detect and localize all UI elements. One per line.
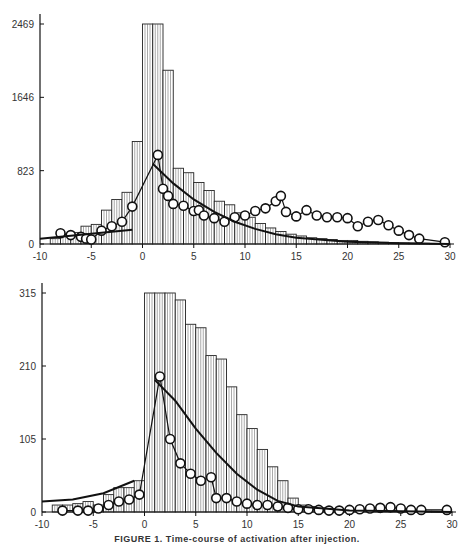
data-point-circle: [125, 495, 134, 504]
y-tick-label: 2469: [12, 19, 35, 30]
data-point-circle: [323, 213, 332, 222]
histogram-bar: [175, 300, 185, 512]
x-tick-label: 0: [142, 519, 148, 530]
data-point-circle: [128, 202, 137, 211]
data-point-circle: [169, 199, 178, 208]
histogram-bar: [153, 24, 163, 244]
data-point-circle: [200, 211, 209, 220]
data-point-circle: [384, 221, 393, 230]
data-point-circle: [374, 215, 383, 224]
x-tick-label: -5: [87, 251, 96, 262]
data-point-circle: [333, 213, 342, 222]
data-point-circle: [232, 497, 241, 506]
histogram-bar: [165, 293, 175, 512]
data-point-circle: [212, 494, 221, 503]
data-point-circle: [394, 226, 403, 235]
x-tick-label: 20: [344, 519, 356, 530]
data-point-circle: [407, 505, 416, 514]
data-point-circle: [261, 204, 270, 213]
histogram-bar: [216, 359, 226, 512]
y-tick-label: 315: [19, 288, 36, 299]
data-point-circle: [263, 501, 272, 510]
data-point-circle: [135, 490, 144, 499]
data-point-circle: [118, 217, 127, 226]
y-tick-label: 0: [28, 239, 34, 250]
data-point-circle: [302, 206, 311, 215]
x-tick-label: 0: [140, 251, 146, 262]
data-point-circle: [155, 372, 164, 381]
data-point-circle: [73, 506, 82, 515]
histogram-bar: [50, 239, 60, 244]
data-point-circle: [292, 212, 301, 221]
histogram-bar: [143, 24, 153, 244]
data-point-circle: [417, 505, 426, 514]
data-point-circle: [415, 234, 424, 243]
data-point-circle: [186, 469, 195, 478]
data-point-circle: [276, 191, 285, 200]
data-point-circle: [243, 499, 252, 508]
data-point-circle: [104, 501, 113, 510]
x-tick-label: 5: [191, 251, 197, 262]
histogram-bar: [163, 70, 173, 244]
data-point-circle: [84, 506, 93, 515]
x-tick-label: -5: [89, 519, 98, 530]
histogram-bar: [276, 232, 286, 244]
histogram-bar: [145, 293, 155, 512]
data-point-circle: [176, 459, 185, 468]
x-tick-label: 20: [342, 251, 354, 262]
data-point-circle: [355, 505, 364, 514]
data-point-circle: [364, 217, 373, 226]
y-tick-label: 105: [19, 434, 36, 445]
data-point-circle: [343, 214, 352, 223]
histogram-bar: [255, 224, 265, 244]
data-point-circle: [210, 214, 219, 223]
data-point-circle: [314, 505, 323, 514]
y-tick-label: 1646: [12, 92, 35, 103]
histogram-bar: [266, 228, 276, 244]
data-point-circle: [179, 201, 188, 210]
y-tick-label: 0: [30, 507, 36, 518]
chart-bottom: -10-50510152025300105210315: [19, 283, 458, 530]
chart-top: -10-5051015202530082316462469: [12, 14, 456, 262]
figure: -10-5051015202530082316462469 -10-505101…: [0, 0, 474, 546]
histogram-bar: [132, 142, 142, 244]
data-point-circle: [325, 506, 334, 515]
x-tick-label: 10: [239, 251, 251, 262]
data-point-circle: [253, 501, 262, 510]
data-point-circle: [273, 502, 282, 511]
data-point-circle: [58, 506, 67, 515]
x-tick-label: -10: [35, 519, 50, 530]
x-tick-label: -10: [33, 251, 48, 262]
data-point-circle: [107, 222, 116, 231]
data-point-circle: [94, 504, 103, 513]
data-point-circle: [353, 222, 362, 231]
histogram-bar: [206, 356, 216, 512]
data-point-circle: [282, 207, 291, 216]
data-point-circle: [222, 494, 231, 503]
x-tick-label: 25: [395, 519, 407, 530]
x-tick-label: 10: [241, 519, 253, 530]
data-point-circle: [442, 505, 451, 514]
x-tick-label: 25: [393, 251, 405, 262]
x-tick-label: 30: [444, 251, 456, 262]
data-point-circle: [207, 473, 216, 482]
data-point-circle: [251, 207, 260, 216]
data-point-circle: [405, 231, 414, 240]
y-tick-label: 210: [19, 361, 36, 372]
data-point-circle: [312, 211, 321, 220]
x-tick-label: 15: [291, 251, 303, 262]
data-point-circle: [114, 497, 123, 506]
y-tick-label: 823: [17, 166, 34, 177]
data-point-circle: [87, 235, 96, 244]
x-tick-label: 15: [293, 519, 305, 530]
histogram-bar: [245, 217, 255, 244]
x-tick-label: 30: [446, 519, 458, 530]
figure-caption: FIGURE 1. Time-course of activation afte…: [0, 534, 474, 544]
data-point-circle: [166, 435, 175, 444]
data-point-circle: [153, 150, 162, 159]
x-tick-label: 5: [193, 519, 199, 530]
data-point-circle: [241, 211, 250, 220]
data-point-circle: [440, 238, 449, 247]
histogram-bar: [155, 293, 165, 512]
data-point-circle: [196, 476, 205, 485]
